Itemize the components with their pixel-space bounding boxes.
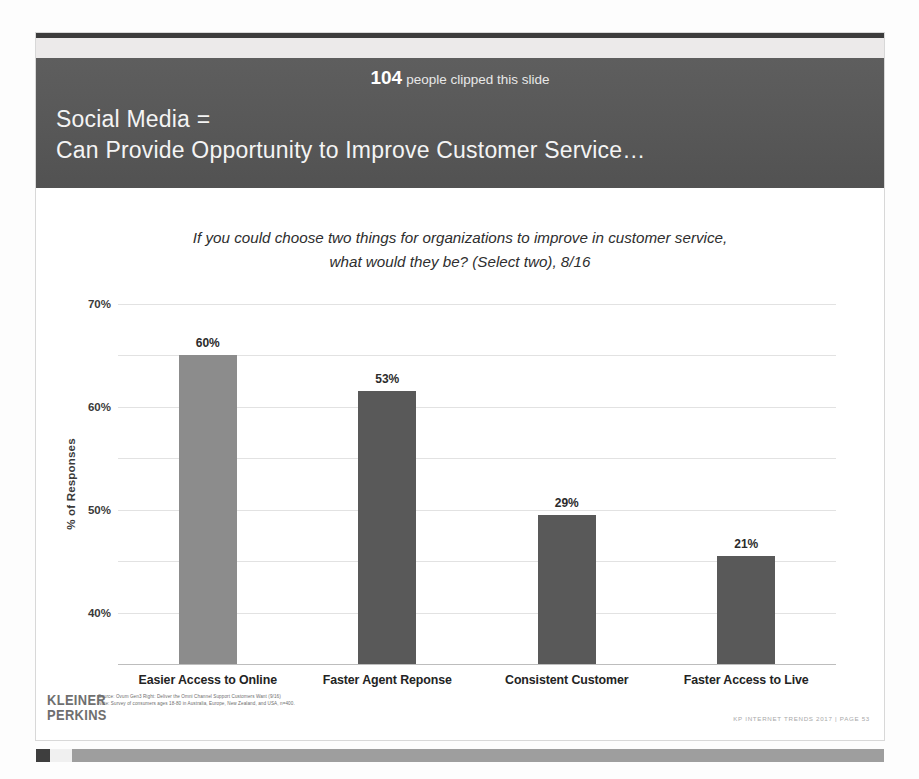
scrollbar-knob-light[interactable] [50,749,72,762]
source-note: Source: Ovum Gen3 Right: Deliver the Omn… [98,693,578,707]
slide-footer: KLEINER PERKINS Source: Ovum Gen3 Right:… [36,688,884,740]
bar-value-label: 21% [734,537,758,551]
axis-baseline: 0% [118,664,836,665]
source-line-2: Note: Survey of consumers ages 18-80 in … [98,700,578,707]
chart-subtitle: If you could choose two things for organ… [76,226,844,274]
slide-header: 104people clipped this slide Social Medi… [36,58,884,188]
chart-body: If you could choose two things for organ… [36,188,884,688]
y-axis-title: % of Responses [62,304,80,664]
clip-count: 104 [370,67,402,88]
y-axis-tick-label: 50% [88,504,111,516]
y-axis-tick-label: 60% [88,401,111,413]
y-axis-tick-label: 70% [88,298,111,310]
bar[interactable]: 60% [179,355,237,664]
bar-slot: 53% [298,304,478,664]
chart-subtitle-line1: If you could choose two things for organ… [76,226,844,250]
category-label-line: Consistent Customer [465,672,669,688]
bar[interactable]: 53% [358,391,416,664]
bar-value-label: 29% [555,496,579,510]
slide-heading: Social Media = Can Provide Opportunity t… [56,104,876,166]
clip-banner: 104people clipped this slide [36,66,884,92]
bar-slot: 21% [657,304,837,664]
slide-heading-line2: Can Provide Opportunity to Improve Custo… [56,134,876,166]
source-line-1: Source: Ovum Gen3 Right: Deliver the Omn… [98,693,578,700]
bar[interactable]: 29% [538,515,596,664]
footer-credit: KP INTERNET TRENDS 2017 | PAGE 53 [733,715,870,722]
slide-container: 104people clipped this slide Social Medi… [36,33,884,740]
bar-value-label: 60% [196,336,220,350]
plot-area: 70%60%50%40%30%20%10%0%60%53%29%21% [118,304,836,664]
slide-top-gap [36,38,884,58]
y-axis-tick-label: 40% [88,607,111,619]
bar-slot: 29% [477,304,657,664]
logo-line-2: PERKINS [47,707,107,722]
chart-subtitle-line2: what would they be? (Select two), 8/16 [76,250,844,274]
scrollbar-knob-dark[interactable] [36,749,50,762]
bar-value-label: 53% [375,372,399,386]
screenshot-root: INTERNET TRENDS 2017 104people clipped t… [0,0,919,779]
bar-slot: 60% [118,304,298,664]
page-title-clipped: INTERNET TRENDS 2017 [0,0,919,6]
bar[interactable]: 21% [717,556,775,664]
slide-heading-line1: Social Media = [56,104,876,134]
category-label-line: Faster Agent Reponse [286,672,490,688]
category-label-line: Faster Access to Live [645,672,849,688]
clip-banner-text: people clipped this slide [406,72,549,87]
category-label-line: Easier Access to Online [106,672,310,688]
horizontal-scrollbar[interactable] [36,749,884,762]
